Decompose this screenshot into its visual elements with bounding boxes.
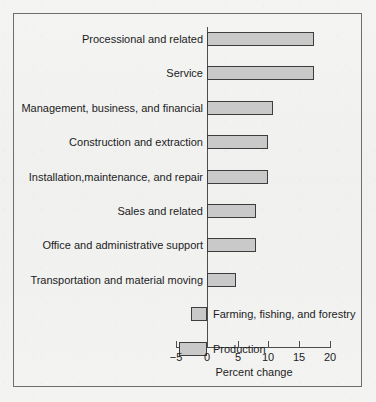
category-label: Service [166,67,203,79]
axis-tick-label: 10 [253,351,283,363]
bar [207,170,268,184]
axis-tick-mark [268,341,269,348]
category-label: Transportation and material moving [30,274,203,286]
bar [191,307,207,321]
category-label: Farming, fishing, and forestry [213,308,355,320]
category-label: Management, business, and financial [21,102,203,114]
bar [207,66,314,80]
category-label: Office and administrative support [42,239,203,251]
bar [207,101,273,115]
axis-tick-label: 5 [223,351,253,363]
axis-tick-label: −5 [161,351,191,363]
axis-tick-mark [330,341,331,348]
axis-tick-label: 15 [284,351,314,363]
bar [207,32,314,46]
bar [207,135,268,149]
bar [207,204,256,218]
category-label: Construction and extraction [69,136,203,148]
axis-tick-mark [176,341,177,348]
bar [207,238,256,252]
category-label: Processional and related [82,33,203,45]
axis-title: Percent change [177,366,331,378]
bar [207,273,236,287]
axis-tick-mark [207,341,208,348]
axis-tick-label: 0 [192,351,222,363]
axis-tick-label: 20 [315,351,345,363]
category-label: Installation,maintenance, and repair [29,171,203,183]
axis-tick-mark [238,341,239,348]
category-label: Sales and related [117,205,203,217]
figure: Processional and relatedServiceManagemen… [0,0,376,402]
axis-tick-mark [299,341,300,348]
plot-area: Processional and relatedServiceManagemen… [0,0,376,402]
